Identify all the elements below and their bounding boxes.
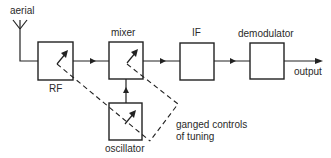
oscillator-block <box>109 103 142 140</box>
receiver-diagram: aerial RF mixer IF demodulator <box>0 0 331 158</box>
if-label: IF <box>192 27 201 38</box>
oscillator-to-mixer-wire <box>123 79 129 103</box>
if-block <box>180 43 214 80</box>
rf-label: RF <box>49 83 62 94</box>
aerial-label: aerial <box>10 5 34 16</box>
aerial-icon <box>13 20 38 61</box>
output-label: output <box>294 66 322 77</box>
mixer-label: mixer <box>111 27 136 38</box>
if-to-demodulator-wire <box>214 58 250 64</box>
ganged-controls-label-line2: of tuning <box>176 131 214 142</box>
rf-to-mixer-wire <box>73 58 109 64</box>
oscillator-label: oscillator <box>105 143 145 154</box>
mixer-block <box>109 42 143 79</box>
ganged-controls-label-line1: ganged controls <box>176 119 247 130</box>
mixer-to-if-wire <box>143 58 180 64</box>
output-wire <box>284 58 323 64</box>
rf-block <box>38 42 73 80</box>
demodulator-block <box>250 43 284 79</box>
demodulator-label: demodulator <box>238 28 294 39</box>
